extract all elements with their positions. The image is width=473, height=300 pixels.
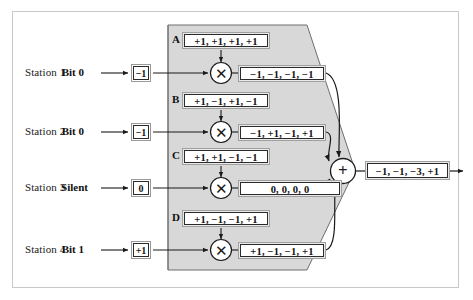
signal-box-3: 0, 0, 0, 0 — [238, 180, 342, 197]
bit-label-1: Bit 0 — [62, 66, 84, 78]
station-label-1: Station 1 — [25, 66, 65, 78]
bit-value-1: −1 — [133, 66, 149, 80]
station-label-2: Station 2 — [25, 125, 65, 137]
multiplier-circle-1 — [211, 63, 232, 84]
chip-letter-c: C — [172, 149, 180, 161]
bit-label-3: Silent — [61, 181, 88, 193]
bit-value-box-1: −1 — [131, 64, 151, 82]
multiplier-circle-3 — [211, 178, 232, 199]
output-value: −1, −1, −3, +1 — [367, 163, 448, 178]
multiplier-circle-2 — [211, 122, 232, 143]
bit-value-box-2: −1 — [131, 123, 151, 141]
chip-letter-b: B — [172, 93, 179, 105]
bit-value-box-4: +1 — [131, 241, 151, 259]
chip-sequence-box-a: +1, +1, +1, +1 — [182, 32, 270, 49]
bit-value-2: −1 — [133, 125, 149, 139]
chip-sequence-box-d: +1, −1, −1, +1 — [182, 210, 270, 227]
bit-label-2: Bit 0 — [62, 125, 84, 137]
bit-value-box-3: 0 — [131, 179, 151, 197]
signal-box-1: −1, −1, −1, −1 — [238, 65, 326, 82]
chip-sequence-box-b: +1, −1, +1, −1 — [182, 92, 270, 109]
chip-sequence-box-c: +1, +1, −1, −1 — [182, 148, 270, 165]
signal-box-4: +1, −1, −1, +1 — [238, 242, 326, 259]
chip-sequence-d: +1, −1, −1, +1 — [184, 212, 268, 225]
chip-letter-a: A — [172, 33, 180, 45]
signal-value-1: −1, −1, −1, −1 — [240, 67, 324, 80]
chip-letter-d: D — [172, 211, 180, 223]
chip-sequence-c: +1, +1, −1, −1 — [184, 150, 268, 163]
output-box: −1, −1, −3, +1 — [365, 161, 450, 180]
signal-value-3: 0, 0, 0, 0 — [240, 182, 340, 195]
bit-value-4: +1 — [133, 243, 149, 257]
multiplier-circle-4 — [211, 240, 232, 261]
bit-value-3: 0 — [133, 181, 149, 195]
figure-canvas: Station 1 Bit 0 −1 A +1, +1, +1, +1 ✕ −1… — [0, 0, 473, 300]
station-label-3: Station 3 — [25, 181, 65, 193]
chip-sequence-b: +1, −1, +1, −1 — [184, 94, 268, 107]
signal-value-4: +1, −1, −1, +1 — [240, 244, 324, 257]
signal-box-2: −1, +1, −1, +1 — [238, 124, 326, 141]
station-label-4: Station 4 — [25, 243, 65, 255]
signal-value-2: −1, +1, −1, +1 — [240, 126, 324, 139]
bit-label-4: Bit 1 — [62, 243, 84, 255]
chip-sequence-a: +1, +1, +1, +1 — [184, 34, 268, 47]
